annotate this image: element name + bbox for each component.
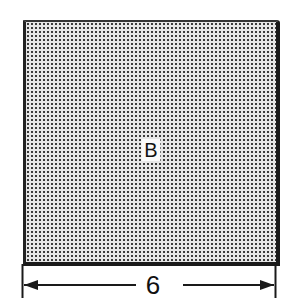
square-diagram: B 6: [0, 0, 291, 303]
right-arrowhead-icon: [260, 280, 274, 290]
dimension-line: [0, 0, 291, 303]
left-arrowhead-icon: [24, 280, 38, 290]
dimension-label: 6: [141, 270, 165, 300]
